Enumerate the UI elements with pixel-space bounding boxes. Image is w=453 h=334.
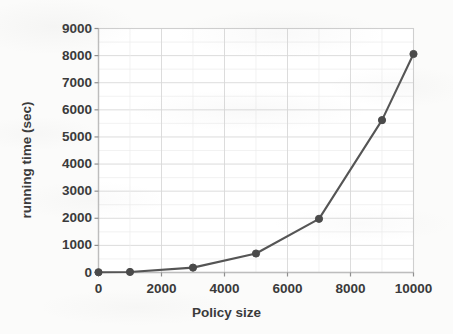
x-tick-label: 6000 xyxy=(272,282,302,296)
y-axis-title: running time (sec) xyxy=(16,60,36,260)
x-axis-title: Policy size xyxy=(0,305,453,320)
y-axis-title-text: running time (sec) xyxy=(19,101,34,218)
chart-figure: 0100020003000400050006000700080009000 02… xyxy=(0,0,453,334)
x-tick-label: 10000 xyxy=(395,282,433,296)
x-tick-label: 4000 xyxy=(209,282,239,296)
x-tick-label: 8000 xyxy=(335,282,365,296)
x-tick-label: 2000 xyxy=(146,282,176,296)
x-tick-label: 0 xyxy=(95,282,103,296)
x-axis-title-text: Policy size xyxy=(192,305,261,320)
x-axis-tick-labels: 0200040006000800010000 xyxy=(0,0,453,334)
